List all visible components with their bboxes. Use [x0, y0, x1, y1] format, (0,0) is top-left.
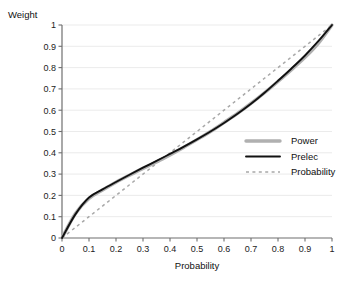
legend-item-power[interactable]: Power: [246, 135, 318, 146]
y-tick-label: 0.5: [43, 127, 56, 137]
x-tick-label: 0.9: [299, 244, 312, 254]
chart-legend: PowerPrelecProbability: [246, 135, 336, 177]
y-tick-label: 0.3: [43, 169, 56, 179]
y-tick-label: 0.4: [43, 148, 56, 158]
x-tick-label: 0.4: [164, 244, 177, 254]
weight-probability-chart: 00.10.20.30.40.50.60.70.80.91 00.10.20.3…: [0, 0, 352, 281]
y-tick-label: 0.7: [43, 84, 56, 94]
legend-label: Probability: [291, 166, 336, 177]
x-tick-label: 0.8: [272, 244, 285, 254]
x-tick-label: 0: [59, 244, 64, 254]
y-tick-label: 0.1: [43, 212, 56, 222]
y-tick-label: 0.8: [43, 63, 56, 73]
y-tick-label: 1: [51, 20, 56, 30]
x-tick-label: 0.3: [137, 244, 150, 254]
x-tick-label: 0.6: [218, 244, 231, 254]
y-tick-label: 0.9: [43, 42, 56, 52]
y-axis-title: Weight: [8, 9, 38, 20]
y-axis-tick-labels: 00.10.20.30.40.50.60.70.80.91: [43, 20, 56, 243]
x-tick-label: 0.7: [245, 244, 258, 254]
legend-label: Power: [291, 135, 318, 146]
y-tick-label: 0: [51, 233, 56, 243]
x-tick-label: 0.2: [110, 244, 123, 254]
x-tick-label: 0.1: [83, 244, 96, 254]
legend-item-probability[interactable]: Probability: [246, 166, 336, 177]
legend-label: Prelec: [291, 151, 318, 162]
x-tick-label: 0.5: [191, 244, 204, 254]
y-tick-label: 0.6: [43, 106, 56, 116]
x-axis-tick-labels: 00.10.20.30.40.50.60.70.80.91: [59, 244, 334, 254]
chart-canvas: 00.10.20.30.40.50.60.70.80.91 00.10.20.3…: [0, 0, 352, 281]
x-axis-title: Probability: [175, 260, 220, 271]
x-tick-label: 1: [329, 244, 334, 254]
y-tick-label: 0.2: [43, 191, 56, 201]
gridlines: [62, 25, 332, 217]
